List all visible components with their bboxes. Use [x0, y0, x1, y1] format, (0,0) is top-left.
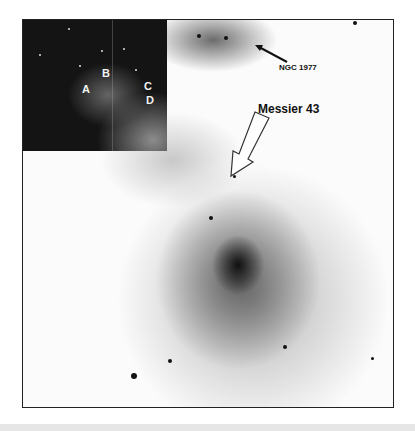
ngc-1977-label: NGC 1977: [279, 63, 317, 72]
bottom-strip: [0, 424, 415, 431]
annotation-arrows: [23, 20, 394, 408]
messier-43-label: Messier 43: [258, 102, 319, 116]
nebula-image-frame: B A C D NGC 1977 Messier 43: [22, 19, 394, 408]
messier-arrow-icon: [231, 112, 269, 176]
ngc-arrow-icon: [259, 47, 287, 62]
